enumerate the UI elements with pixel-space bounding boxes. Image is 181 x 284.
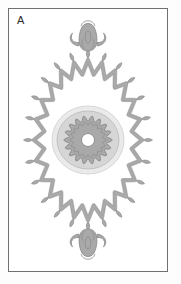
leaf-tip-icon: [26, 160, 35, 163]
leaf-tip-icon: [70, 53, 74, 61]
leaf-tip-icon: [136, 96, 144, 100]
leaf-tip-icon: [24, 138, 33, 141]
leaf-tip-icon: [54, 63, 60, 70]
leaf-tip-icon: [70, 219, 74, 227]
leaf-tip-icon: [136, 180, 144, 184]
leaf-tip-icon: [31, 180, 39, 184]
leaf-tip-icon: [116, 63, 122, 70]
leaf-tip-icon: [144, 138, 153, 141]
rosette-medallion-figure: [8, 8, 168, 272]
finial-curl: [70, 33, 79, 46]
leaf-tip-icon: [127, 197, 134, 202]
leaf-tip-icon: [41, 78, 48, 83]
leaf-tip-icon: [102, 53, 106, 61]
ornament-plate: A: [0, 0, 181, 284]
leaf-tip-icon: [102, 219, 106, 227]
leaf-tip-icon: [26, 117, 35, 120]
leaf-tip-icon: [41, 197, 48, 202]
finial-curl: [97, 234, 106, 247]
leaf-tip-icon: [31, 96, 39, 100]
finial-curl: [97, 33, 106, 46]
finial-curl: [70, 234, 79, 247]
leaf-tip-icon: [142, 160, 151, 163]
leaf-tip-icon: [142, 117, 151, 120]
top-droplet: [85, 31, 91, 43]
panel-label: A: [17, 15, 25, 26]
center-hole: [82, 134, 95, 147]
ornament-art-layer: [8, 8, 168, 272]
leaf-tip-icon: [127, 78, 134, 83]
leaf-tip-icon: [54, 210, 60, 217]
bottom-droplet: [85, 237, 91, 249]
leaf-tip-icon: [116, 210, 122, 217]
